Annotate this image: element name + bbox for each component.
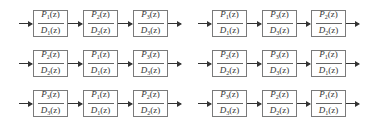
input-arrow [198,63,211,64]
fraction: P2(z)D2(z) [84,11,117,36]
fraction: P2(z)D2(z) [34,51,67,76]
fraction: P1(z)D1(z) [84,91,117,116]
fraction-bar [38,103,64,104]
fraction: P1(z)D1(z) [312,91,345,116]
input-arrow [19,63,32,64]
fraction: P2(z)D2(z) [263,91,296,116]
numerator: P2(z) [319,9,338,22]
transfer-function-block: P3(z)D3(z) [212,90,247,117]
fraction-bar [316,63,342,64]
numerator: P1(z) [319,89,338,102]
denominator: D3(z) [141,25,161,38]
fraction: P3(z)D3(z) [263,51,296,76]
transfer-function-block: P1(z)D1(z) [311,50,346,77]
block-diagram-stage: P1(z)D1(z)P2(z)D2(z)P3(z)D3(z)P1(z)D1(z)… [0,0,377,127]
denominator: D2(z) [41,65,61,78]
transfer-function-block: P1(z)D1(z) [212,10,247,37]
fraction-bar [217,63,243,64]
fraction-bar [316,103,342,104]
fraction: P3(z)D3(z) [34,91,67,116]
fraction-bar [88,23,114,24]
transfer-function-block: P3(z)D3(z) [33,90,68,117]
input-arrow [198,23,211,24]
output-arrow [346,103,359,104]
numerator: P2(z) [141,89,160,102]
transfer-function-block: P2(z)D2(z) [212,50,247,77]
denominator: D2(z) [319,25,339,38]
denominator: D3(z) [270,65,290,78]
denominator: D1(z) [41,25,61,38]
fraction-bar [88,103,114,104]
fraction-bar [38,63,64,64]
fraction-bar [316,23,342,24]
fraction: P1(z)D1(z) [312,51,345,76]
numerator: P2(z) [220,49,239,62]
numerator: P2(z) [270,89,289,102]
connector-arrow [297,23,310,24]
output-arrow [346,63,359,64]
transfer-function-block: P3(z)D3(z) [133,10,168,37]
connector-arrow [68,63,82,64]
fraction: P1(z)D1(z) [84,51,117,76]
fraction-bar [267,63,293,64]
connector-arrow [118,63,132,64]
transfer-function-block: P1(z)D1(z) [83,50,118,77]
numerator: P3(z) [270,9,289,22]
connector-arrow [118,103,132,104]
fraction: P1(z)D1(z) [213,11,246,36]
fraction-bar [38,23,64,24]
input-arrow [19,23,32,24]
fraction-bar [267,23,293,24]
fraction: P3(z)D3(z) [134,51,167,76]
numerator: P1(z) [91,49,110,62]
connector-arrow [247,103,261,104]
connector-arrow [118,23,132,24]
transfer-function-block: P1(z)D1(z) [83,90,118,117]
connector-arrow [297,103,310,104]
fraction: P2(z)D2(z) [213,51,246,76]
output-arrow [168,23,181,24]
output-arrow [346,23,359,24]
transfer-function-block: P1(z)D1(z) [311,90,346,117]
fraction-bar [217,23,243,24]
connector-arrow [68,23,82,24]
numerator: P1(z) [91,89,110,102]
fraction: P3(z)D3(z) [134,11,167,36]
transfer-function-block: P2(z)D2(z) [311,10,346,37]
transfer-function-block: P3(z)D3(z) [262,50,297,77]
input-arrow [19,103,32,104]
denominator: D1(z) [319,105,339,118]
numerator: P3(z) [220,89,239,102]
denominator: D3(z) [141,65,161,78]
connector-arrow [297,63,310,64]
output-arrow [168,63,181,64]
transfer-function-block: P1(z)D1(z) [33,10,68,37]
connector-arrow [247,23,261,24]
transfer-function-block: P3(z)D3(z) [262,10,297,37]
input-arrow [198,103,211,104]
numerator: P1(z) [41,9,60,22]
transfer-function-block: P2(z)D2(z) [33,50,68,77]
fraction: P3(z)D3(z) [263,11,296,36]
transfer-function-block: P3(z)D3(z) [133,50,168,77]
denominator: D2(z) [270,105,290,118]
fraction: P3(z)D3(z) [213,91,246,116]
numerator: P3(z) [270,49,289,62]
fraction: P1(z)D1(z) [34,11,67,36]
transfer-function-block: P2(z)D2(z) [133,90,168,117]
fraction-bar [88,63,114,64]
numerator: P3(z) [141,49,160,62]
transfer-function-block: P2(z)D2(z) [83,10,118,37]
fraction: P2(z)D2(z) [134,91,167,116]
denominator: D3(z) [220,105,240,118]
fraction: P2(z)D2(z) [312,11,345,36]
denominator: D2(z) [220,65,240,78]
fraction-bar [138,103,164,104]
denominator: D2(z) [91,25,111,38]
denominator: D2(z) [141,105,161,118]
denominator: D1(z) [319,65,339,78]
output-arrow [168,103,181,104]
fraction-bar [267,103,293,104]
numerator: P1(z) [220,9,239,22]
denominator: D3(z) [41,105,61,118]
